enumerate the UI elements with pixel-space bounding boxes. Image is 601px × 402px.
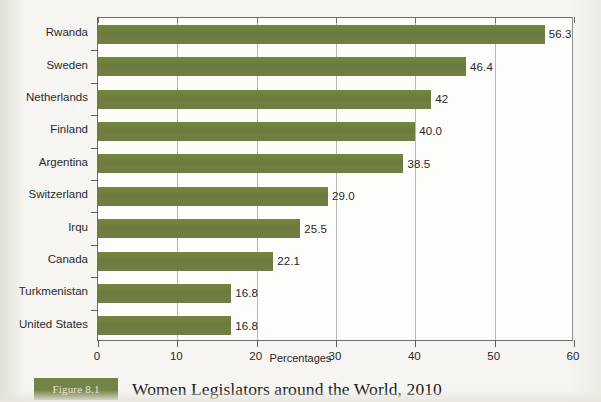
y-axis-tick — [91, 212, 98, 213]
bar — [98, 219, 300, 238]
y-axis-tick — [91, 115, 98, 116]
axis-tick-top — [415, 17, 416, 23]
y-axis-category-label: Sweden — [46, 59, 88, 71]
y-axis-category-label: Argentina — [39, 156, 88, 168]
bar-value-label: 25.5 — [304, 223, 327, 235]
bar-row: 22.1 — [98, 252, 574, 271]
y-axis-tick — [91, 50, 98, 51]
figure-root: 56.346.44240.038.529.025.522.116.816.8 R… — [0, 0, 601, 402]
y-axis-category-label: Netherlands — [26, 91, 88, 103]
axis-tick-top — [574, 17, 575, 23]
axis-tick-bottom — [574, 340, 575, 347]
bar — [98, 122, 415, 141]
y-axis-tick — [91, 83, 98, 84]
y-axis-category-label: Canada — [48, 253, 88, 265]
bar-row: 46.4 — [98, 57, 574, 76]
bar-row: 40.0 — [98, 122, 574, 141]
axis-tick-top — [257, 17, 258, 23]
bar-chart: 56.346.44240.038.529.025.522.116.816.8 R… — [0, 0, 601, 368]
bar-value-label: 38.5 — [407, 158, 430, 170]
axis-tick-top — [177, 17, 178, 23]
axis-tick-bottom — [495, 340, 496, 347]
axis-tick-bottom — [415, 340, 416, 347]
y-axis-tick — [91, 245, 98, 246]
bar-value-label: 56.3 — [549, 28, 572, 40]
axis-tick-bottom — [257, 340, 258, 347]
figure-caption-row: Figure 8.1 Women Legislators around the … — [0, 376, 601, 402]
bar-value-label: 42 — [435, 93, 448, 105]
bar — [98, 284, 231, 303]
y-axis-tick — [91, 180, 98, 181]
y-axis-category-label: Finland — [50, 123, 88, 135]
bar-row: 56.3 — [98, 25, 574, 44]
bar-row: 38.5 — [98, 154, 574, 173]
y-axis-category-label: Irqu — [68, 221, 88, 233]
y-axis-tick — [91, 310, 98, 311]
bar-value-label: 40.0 — [419, 125, 442, 137]
bar — [98, 187, 328, 206]
bar — [98, 25, 545, 44]
bar — [98, 252, 273, 271]
bar-value-label: 16.8 — [235, 320, 258, 332]
bar-row: 16.8 — [98, 316, 574, 335]
y-axis-tick — [91, 277, 98, 278]
bar-value-label: 22.1 — [277, 255, 300, 267]
axis-tick-bottom — [336, 340, 337, 347]
bar-row: 16.8 — [98, 284, 574, 303]
axis-tick-top — [495, 17, 496, 23]
y-axis-category-label: Rwanda — [46, 26, 88, 38]
plot-area: 56.346.44240.038.529.025.522.116.816.8 — [97, 17, 573, 341]
bar-row: 29.0 — [98, 187, 574, 206]
bar — [98, 90, 431, 109]
y-axis-category-label: United States — [19, 318, 88, 330]
x-axis-title: Percentages — [0, 352, 601, 364]
axis-tick-top — [98, 17, 99, 23]
bar-value-label: 16.8 — [235, 287, 258, 299]
figure-number-badge: Figure 8.1 — [34, 378, 118, 400]
figure-caption-title: Women Legislators around the World, 2010 — [132, 379, 442, 400]
axis-tick-bottom — [177, 340, 178, 347]
bar — [98, 154, 403, 173]
y-axis-category-label: Turkmenistan — [19, 285, 88, 297]
bar-value-label: 46.4 — [470, 61, 493, 73]
axis-tick-bottom — [98, 340, 99, 347]
y-axis-category-label: Switzerland — [29, 188, 88, 200]
bar-row: 25.5 — [98, 219, 574, 238]
bar-row: 42 — [98, 90, 574, 109]
bar — [98, 316, 231, 335]
axis-tick-top — [336, 17, 337, 23]
bar-value-label: 29.0 — [332, 190, 355, 202]
y-axis-tick — [91, 148, 98, 149]
bar — [98, 57, 466, 76]
